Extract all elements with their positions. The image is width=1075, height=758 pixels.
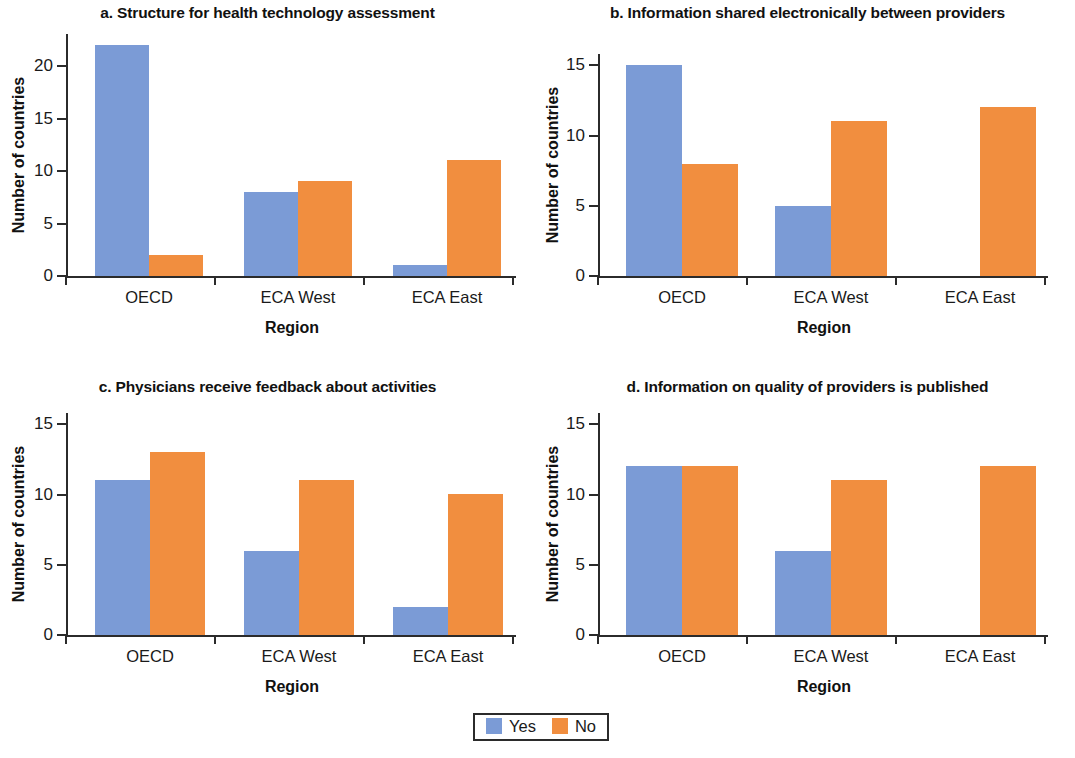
panel-a-xtick-boundary-0: [65, 276, 67, 285]
panel-a-xtick-boundary-1: [214, 276, 216, 285]
legend-entry-yes: Yes: [486, 718, 536, 735]
panel-b-y-axis-title: Number of countries: [544, 87, 562, 243]
panel-b-y-axis: [598, 54, 600, 276]
panel-b-xtick-boundary-2: [895, 276, 897, 285]
panel-a-ytick-label-0: 0: [44, 266, 53, 286]
panel-a-x-axis-title: Region: [265, 319, 319, 337]
panel-b-bar-oecd-yes: [626, 65, 682, 276]
panel-b-ytick-label-10: 10: [566, 126, 585, 146]
panel-d-xtick-boundary-2: [895, 635, 897, 644]
panel-b-xtick-label-eca-east: ECA East: [945, 288, 1016, 307]
panel-b-bar-eca-east-no: [980, 107, 1036, 276]
panel-d-xtick-boundary-1: [746, 635, 748, 644]
panel-b-xtick-label-oecd: OECD: [658, 288, 706, 307]
panel-a-bar-oecd-no: [149, 255, 203, 276]
panel-b-xtick-boundary-3: [1044, 276, 1046, 285]
panel-d-xtick-boundary-0: [597, 635, 599, 644]
panel-a-xtick-label-eca-east: ECA East: [412, 288, 483, 307]
panel-d-plot-area: 0 5 10 15 OECD ECA West ECA East Region: [598, 413, 1046, 635]
panel-c-xtick-boundary-1: [214, 635, 216, 644]
panel-d-ytick-label-10: 10: [566, 485, 585, 505]
panel-d-y-axis-title: Number of countries: [544, 446, 562, 602]
panel-c-xtick-label-oecd: OECD: [126, 647, 174, 666]
panel-a-ytick-label-10: 10: [34, 161, 53, 181]
panel-c-x-axis: [66, 635, 516, 637]
chart-legend: Yes No: [473, 713, 609, 741]
panel-b-title: b. Information shared electronically bet…: [540, 4, 1075, 22]
panel-a-ytick-label-5: 5: [44, 214, 53, 234]
panel-a-ytick-15: [57, 118, 66, 120]
panel-d-y-axis: [598, 413, 600, 635]
panel-d-xtick-boundary-3: [1044, 635, 1046, 644]
panel-c-ytick-label-0: 0: [44, 625, 53, 645]
panel-a-ytick-label-15: 15: [34, 109, 53, 129]
panel-b-x-axis: [598, 276, 1048, 278]
panel-a-y-axis-title: Number of countries: [10, 77, 28, 233]
panel-d-x-axis-title: Region: [797, 678, 851, 696]
panel-c: c. Physicians receive feedback about act…: [0, 378, 535, 728]
panel-d-ytick-label-0: 0: [576, 625, 585, 645]
panel-d-xtick-label-eca-west: ECA West: [794, 647, 869, 666]
panel-d-ytick-label-5: 5: [576, 555, 585, 575]
panel-b-bar-eca-west-yes: [775, 206, 831, 276]
panel-c-y-axis-title: Number of countries: [10, 446, 28, 602]
panel-c-x-axis-title: Region: [265, 678, 319, 696]
panel-d-x-axis: [598, 635, 1048, 637]
bar-chart-figure: a. Structure for health technology asses…: [0, 0, 1075, 758]
panel-b-ytick-15: [589, 64, 598, 66]
panel-c-bar-eca-east-yes: [393, 607, 448, 635]
panel-a-xtick-boundary-2: [363, 276, 365, 285]
panel-c-title: c. Physicians receive feedback about act…: [0, 378, 535, 396]
panel-a-xtick-label-oecd: OECD: [125, 288, 173, 307]
legend-swatch-yes-icon: [486, 718, 502, 734]
panel-c-xtick-boundary-0: [65, 635, 67, 644]
panel-b-x-axis-title: Region: [797, 319, 851, 337]
panel-a-bar-oecd-yes: [95, 45, 149, 276]
panel-c-bar-eca-east-no: [448, 494, 503, 635]
panel-c-ytick-label-10: 10: [34, 485, 53, 505]
panel-d-ytick-15: [589, 423, 598, 425]
panel-a-bar-eca-east-yes: [393, 265, 447, 276]
panel-b-ytick-10: [589, 135, 598, 137]
panel-a-xtick-label-eca-west: ECA West: [261, 288, 336, 307]
panel-c-ytick-5: [57, 564, 66, 566]
panel-c-y-axis: [66, 413, 68, 635]
panel-c-xtick-boundary-3: [512, 635, 514, 644]
panel-d-bar-oecd-no: [682, 466, 738, 635]
panel-b-ytick-label-15: 15: [566, 55, 585, 75]
panel-b-xtick-label-eca-west: ECA West: [794, 288, 869, 307]
panel-d-ytick-label-15: 15: [566, 414, 585, 434]
panel-b-xtick-boundary-0: [597, 276, 599, 285]
panel-d-bar-eca-east-no: [980, 466, 1036, 635]
legend-swatch-no-icon: [552, 718, 568, 734]
panel-b-bar-oecd-no: [682, 164, 738, 276]
panel-a-x-axis: [66, 276, 516, 278]
panel-d-xtick-label-oecd: OECD: [658, 647, 706, 666]
legend-label-yes: Yes: [509, 718, 536, 735]
panel-c-xtick-boundary-2: [363, 635, 365, 644]
panel-c-bar-oecd-yes: [95, 480, 150, 635]
panel-c-bar-eca-west-yes: [244, 551, 299, 635]
panel-c-ytick-label-15: 15: [34, 414, 53, 434]
panel-a-ytick-5: [57, 223, 66, 225]
panel-a-title: a. Structure for health technology asses…: [0, 4, 535, 22]
panel-a-bar-eca-west-no: [298, 181, 352, 276]
panel-d: d. Information on quality of providers i…: [540, 378, 1075, 728]
panel-d-ytick-5: [589, 564, 598, 566]
panel-c-xtick-label-eca-east: ECA East: [413, 647, 484, 666]
panel-c-bar-eca-west-no: [299, 480, 354, 635]
panel-a-y-axis: [66, 34, 68, 276]
legend-label-no: No: [575, 718, 596, 735]
panel-b-bar-eca-west-no: [831, 121, 887, 276]
panel-d-title: d. Information on quality of providers i…: [540, 378, 1075, 396]
panel-b: b. Information shared electronically bet…: [540, 4, 1075, 354]
panel-c-bar-oecd-no: [150, 452, 205, 635]
panel-a-xtick-boundary-3: [512, 276, 514, 285]
panel-c-ytick-label-5: 5: [44, 555, 53, 575]
panel-b-xtick-boundary-1: [746, 276, 748, 285]
panel-c-xtick-label-eca-west: ECA West: [262, 647, 337, 666]
panel-a-bar-eca-west-yes: [244, 192, 298, 276]
panel-b-ytick-label-0: 0: [576, 266, 585, 286]
panel-a-ytick-10: [57, 170, 66, 172]
panel-c-plot-area: 0 5 10 15 OECD ECA West ECA East Region: [66, 413, 514, 635]
